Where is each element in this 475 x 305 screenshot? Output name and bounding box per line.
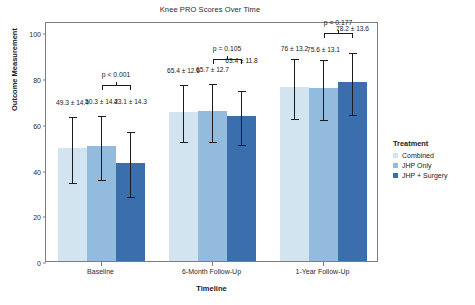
legend: Treatment CombinedJHP OnlyJHP + Surgery xyxy=(393,139,475,182)
y-axis-title: Outcome Measurement xyxy=(10,28,19,111)
error-bar xyxy=(130,132,131,197)
y-tick-mark xyxy=(43,125,46,126)
p-value-bracket-tick xyxy=(116,82,117,86)
y-tick-mark xyxy=(43,80,46,81)
x-tick-label: Baseline xyxy=(87,268,114,275)
error-cap-lower xyxy=(127,197,135,198)
legend-item-label: JHP Only xyxy=(402,162,431,169)
error-cap-lower xyxy=(98,180,106,181)
legend-item[interactable]: JHP Only xyxy=(393,162,475,169)
legend-swatch-icon xyxy=(393,173,398,178)
error-cap-upper xyxy=(349,53,357,54)
error-bar xyxy=(101,116,102,181)
error-cap-upper xyxy=(127,132,135,133)
error-cap-lower xyxy=(291,119,299,120)
error-bar xyxy=(72,117,73,183)
legend-items: CombinedJHP OnlyJHP + Surgery xyxy=(393,152,475,179)
error-cap-lower xyxy=(69,183,77,184)
bar-value-label: 75.6 ± 13.1 xyxy=(307,46,340,53)
chart-container: Knee PRO Scores Over Time Outcome Measur… xyxy=(0,0,475,305)
legend-swatch-icon xyxy=(393,153,398,158)
p-value-bracket xyxy=(213,59,242,64)
error-bar xyxy=(212,84,213,142)
error-cap-upper xyxy=(180,85,188,86)
p-value-bracket-tick xyxy=(338,30,339,34)
error-bar xyxy=(323,60,324,120)
error-cap-lower xyxy=(320,120,328,121)
y-tick-mark xyxy=(43,263,46,264)
error-cap-lower xyxy=(180,142,188,143)
p-value-bracket xyxy=(324,33,353,38)
p-value-label: p = 0.177 xyxy=(324,19,353,26)
bar-value-label: 78.2 ± 13.6 xyxy=(336,25,369,32)
error-cap-upper xyxy=(69,117,77,118)
p-value-label: p < 0.001 xyxy=(102,71,131,78)
x-tick-mark xyxy=(212,262,213,266)
y-tick-mark xyxy=(43,217,46,218)
plot-area: Outcome Measurement 020406080100 49.3 ± … xyxy=(45,22,378,262)
error-cap-lower xyxy=(238,145,246,146)
x-tick-label: 6-Month Follow-Up xyxy=(182,268,241,275)
chart-title: Knee PRO Scores Over Time xyxy=(0,5,420,14)
error-bar xyxy=(352,53,353,115)
x-tick-mark xyxy=(101,262,102,266)
x-axis-title: Timeline xyxy=(45,284,378,293)
error-bar xyxy=(183,85,184,143)
y-tick-mark xyxy=(43,34,46,35)
legend-item-label: Combined xyxy=(402,152,434,159)
p-value-bracket-tick xyxy=(227,56,228,60)
x-tick-label: 1-Year Follow-Up xyxy=(296,268,350,275)
error-cap-upper xyxy=(238,91,246,92)
y-tick-mark xyxy=(43,171,46,172)
p-value-bracket xyxy=(102,85,131,90)
bar-value-label: 65.7 ± 12.7 xyxy=(196,66,229,73)
legend-swatch-icon xyxy=(393,163,398,168)
error-bar xyxy=(294,59,295,119)
error-cap-lower xyxy=(349,115,357,116)
bar-value-label: 43.1 ± 14.3 xyxy=(114,98,147,105)
error-cap-upper xyxy=(320,60,328,61)
error-cap-lower xyxy=(209,142,217,143)
error-bar xyxy=(241,91,242,145)
bar-value-label: 76 ± 13.2 xyxy=(281,45,308,52)
legend-item[interactable]: Combined xyxy=(393,152,475,159)
p-value-label: p = 0.105 xyxy=(213,45,242,52)
x-tick-mark xyxy=(323,262,324,266)
error-cap-upper xyxy=(209,84,217,85)
legend-item-label: JHP + Surgery xyxy=(402,172,448,179)
error-cap-upper xyxy=(291,59,299,60)
error-cap-upper xyxy=(98,116,106,117)
legend-title: Treatment xyxy=(393,139,475,148)
legend-item[interactable]: JHP + Surgery xyxy=(393,172,475,179)
